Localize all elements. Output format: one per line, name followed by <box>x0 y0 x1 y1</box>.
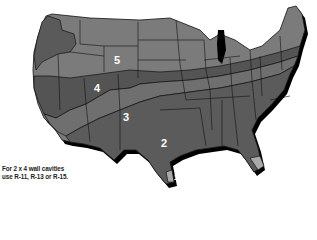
zone-1-label: 1 <box>174 173 179 182</box>
zone-2-label: 2 <box>161 137 167 149</box>
wall-cavity-note: For 2 x 4 wall cavities use R-11, R-13 o… <box>2 165 68 180</box>
note-line-1: For 2 x 4 wall cavities <box>2 165 68 173</box>
note-line-2: use R-11, R-13 or R-15. <box>2 173 68 181</box>
zone-5-label: 5 <box>114 54 120 66</box>
zone-4-label: 4 <box>94 82 101 94</box>
zone-3-label: 3 <box>123 111 129 123</box>
